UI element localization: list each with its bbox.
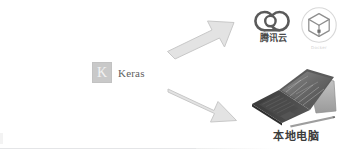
cloud-icon — [252, 6, 294, 33]
local-computer-label: 本地电脑 — [273, 131, 319, 142]
keras-label: Keras — [118, 67, 145, 79]
tencent-cloud-label: 腾讯云 — [260, 34, 287, 43]
cube-in-circle-icon — [300, 6, 338, 44]
keras-node: K Keras — [92, 62, 145, 83]
surface-laptop-icon — [246, 66, 346, 130]
diagram-canvas: K Keras 腾讯云 — [0, 0, 350, 162]
bottom-divider — [0, 148, 196, 149]
left-edge-artifact — [0, 133, 3, 144]
keras-logo-letter: K — [97, 66, 107, 80]
arrow-to-local-icon — [166, 84, 246, 126]
keras-logo-icon: K — [92, 62, 112, 83]
arrow-to-cloud-icon — [166, 18, 242, 60]
box-circle-label: Docker — [311, 46, 327, 50]
box-circle-target: Docker — [299, 6, 339, 50]
local-computer-target: 本地电脑 — [244, 66, 348, 142]
bottom-divider-fade — [196, 148, 276, 149]
tencent-cloud-target: 腾讯云 — [250, 6, 296, 43]
